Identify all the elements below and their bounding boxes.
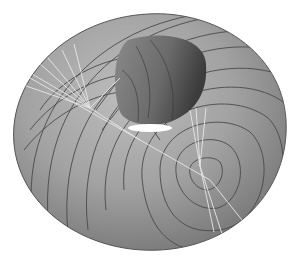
torus-figure [0,0,296,259]
hole-highlight [128,124,172,132]
